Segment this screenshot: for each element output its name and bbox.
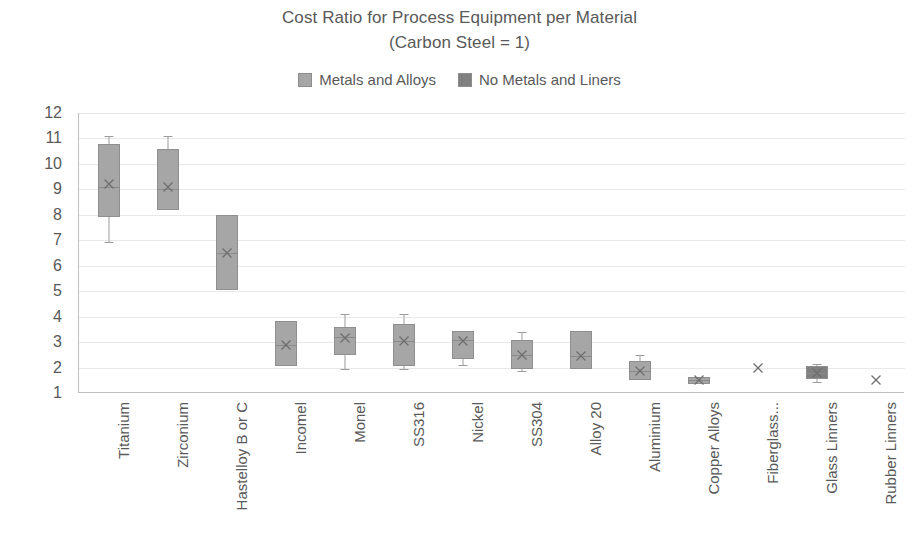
legend-swatch-icon (458, 73, 472, 87)
lower-whisker-cap (340, 369, 349, 370)
x-axis-tick-label: Titanium (115, 402, 132, 459)
upper-whisker-cap (399, 314, 408, 315)
y-axis-tick-label: 9 (53, 180, 62, 198)
legend-label: Metals and Alloys (319, 71, 436, 88)
lower-whisker (344, 355, 345, 369)
x-axis-tick: Alloy 20 (587, 402, 604, 455)
chart-title: Cost Ratio for Process Equipment per Mat… (0, 5, 919, 30)
chart-legend: Metals and AlloysNo Metals and Liners (0, 71, 919, 88)
x-axis-tick-label: Zirconium (174, 402, 191, 468)
y-axis-tick-label: 4 (53, 308, 62, 326)
mean-marker-icon (693, 374, 704, 385)
x-axis-tick: Zirconium (174, 402, 191, 468)
x-axis-tick: SS316 (410, 402, 427, 447)
boxplot-monel[interactable] (315, 113, 374, 393)
x-axis-tick-label: Monel (351, 402, 368, 443)
mean-marker-icon (398, 335, 409, 346)
mean-marker-icon (457, 335, 468, 346)
boxplot-alloy-20[interactable] (551, 113, 610, 393)
box (157, 149, 179, 210)
x-axis-tick: SS304 (528, 402, 545, 447)
boxplot-series (79, 113, 905, 393)
boxplot-glass-linners[interactable] (787, 113, 846, 393)
x-axis-tick: Glass Linners (823, 402, 840, 494)
y-axis-tick-label: 10 (44, 155, 62, 173)
mean-marker-icon (811, 367, 822, 378)
x-axis-labels: TitaniumZirconiumHastelloy B or CIncomel… (78, 398, 904, 546)
legend-swatch-icon (298, 73, 312, 87)
y-axis-tick-label: 2 (53, 359, 62, 377)
y-axis-tick-label: 7 (53, 231, 62, 249)
y-axis-tick-label: 8 (53, 206, 62, 224)
mean-marker-icon (634, 366, 645, 377)
boxplot-ss304[interactable] (492, 113, 551, 393)
mean-marker-icon (870, 375, 881, 386)
mean-marker-icon (516, 349, 527, 360)
x-axis-tick-label: Glass Linners (823, 402, 840, 494)
mean-marker-icon (280, 339, 291, 350)
boxplot-aluminium[interactable] (610, 113, 669, 393)
mean-marker-icon (575, 351, 586, 362)
x-axis-tick-label: Copper Alloys (705, 402, 722, 495)
mean-marker-icon (103, 179, 114, 190)
x-axis-tick-label: Rubber Linners (882, 402, 899, 505)
y-axis-tick-label: 12 (44, 104, 62, 122)
lower-whisker-cap (812, 382, 821, 383)
y-axis-tick-label: 11 (45, 129, 62, 147)
boxplot-copper-alloys[interactable] (669, 113, 728, 393)
x-axis-tick: Nickel (469, 402, 486, 443)
x-axis-tick: Incomel (292, 402, 309, 455)
y-axis-tick-label: 5 (53, 282, 62, 300)
chart-subtitle: (Carbon Steel = 1) (0, 30, 919, 55)
boxplot-zirconium[interactable] (138, 113, 197, 393)
mean-marker-icon (221, 248, 232, 259)
x-axis-tick-label: Aluminium (646, 402, 663, 472)
upper-whisker (344, 314, 345, 327)
x-axis-tick: Titanium (115, 402, 132, 459)
upper-whisker-cap (104, 136, 113, 137)
x-axis-tick: Rubber Linners (882, 402, 899, 505)
y-axis-labels: 123456789101112 (0, 113, 70, 394)
y-axis-tick-label: 6 (53, 257, 62, 275)
lower-whisker-cap (104, 242, 113, 243)
x-axis-tick: Hastelloy B or C (233, 402, 250, 510)
boxplot-fiberglass[interactable] (728, 113, 787, 393)
y-axis-tick-label: 1 (53, 384, 62, 402)
boxplot-nickel[interactable] (433, 113, 492, 393)
mean-marker-icon (752, 362, 763, 373)
legend-item-1[interactable]: Metals and Alloys (298, 71, 436, 88)
lower-whisker-cap (517, 371, 526, 372)
upper-whisker (403, 314, 404, 324)
x-axis-tick-label: Fiberglass... (764, 402, 781, 484)
y-axis-tick-label: 3 (53, 333, 62, 351)
lower-whisker (108, 217, 109, 241)
mean-marker-icon (339, 333, 350, 344)
x-axis-tick-label: Alloy 20 (587, 402, 604, 455)
x-axis-tick: Copper Alloys (705, 402, 722, 495)
lower-whisker-cap (458, 365, 467, 366)
x-axis-tick-label: Nickel (469, 402, 486, 443)
boxplot-ss316[interactable] (374, 113, 433, 393)
x-axis-tick-label: SS316 (410, 402, 427, 447)
mean-marker-icon (162, 181, 173, 192)
upper-whisker (521, 332, 522, 340)
boxplot-hastelloy-b-or-c[interactable] (197, 113, 256, 393)
upper-whisker-cap (163, 136, 172, 137)
x-axis-tick: Fiberglass... (764, 402, 781, 484)
x-axis-tick: Aluminium (646, 402, 663, 472)
x-axis-tick: Monel (351, 402, 368, 443)
lower-whisker-cap (399, 369, 408, 370)
boxplot-titanium[interactable] (79, 113, 138, 393)
upper-whisker (108, 136, 109, 144)
legend-item-2[interactable]: No Metals and Liners (458, 71, 621, 88)
upper-whisker-cap (340, 314, 349, 315)
x-axis-tick-label: Incomel (292, 402, 309, 455)
upper-whisker-cap (635, 355, 644, 356)
boxplot-incomel[interactable] (256, 113, 315, 393)
upper-whisker (167, 136, 168, 149)
boxplot-rubber-linners[interactable] (846, 113, 905, 393)
chart-container: Cost Ratio for Process Equipment per Mat… (0, 0, 919, 546)
x-axis-tick-label: Hastelloy B or C (233, 402, 250, 510)
plot-area (78, 113, 904, 393)
x-axis-tick-label: SS304 (528, 402, 545, 447)
